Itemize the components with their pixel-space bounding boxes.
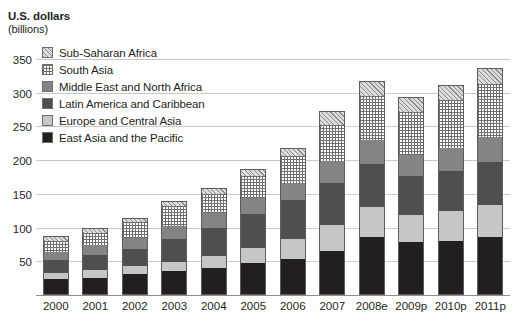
- bar-segment-mena: [320, 161, 344, 182]
- legend-swatch-icon-ssa: [42, 47, 53, 58]
- y-axis-tick-label: 250: [2, 121, 32, 133]
- bar-segment-mena: [478, 137, 502, 161]
- y-axis-tick-label: 150: [2, 189, 32, 201]
- legend-swatch-icon-lac: [42, 98, 53, 109]
- bar-segment-sa: [320, 125, 344, 161]
- stacked-bar[interactable]: [438, 85, 464, 295]
- bar-segment-sa: [281, 156, 305, 183]
- bar-segment-ssa: [360, 82, 384, 96]
- bar-segment-eap: [281, 259, 305, 294]
- bar-segment-ssa: [478, 69, 502, 84]
- bar-segment-sa: [83, 233, 107, 245]
- x-axis-labels: 200020012002200320042005200620072008e200…: [36, 300, 510, 320]
- bar-segment-eca: [439, 211, 463, 240]
- bar-segment-sa: [399, 112, 423, 155]
- bar-segment-mena: [123, 238, 147, 249]
- bar-segment-ssa: [439, 86, 463, 100]
- bar-segment-eca: [399, 215, 423, 242]
- legend-swatch-icon-eca: [42, 115, 53, 126]
- bar-segment-ssa: [320, 112, 344, 125]
- legend-swatch-icon-sa: [42, 64, 53, 75]
- chart-legend: Sub-Saharan AfricaSouth AsiaMiddle East …: [42, 44, 205, 146]
- stacked-bar[interactable]: [82, 228, 108, 295]
- legend-item-label: South Asia: [59, 64, 113, 76]
- stacked-bar[interactable]: [477, 68, 503, 295]
- legend-item-sa[interactable]: South Asia: [42, 61, 205, 78]
- chart-subtitle: (billions): [8, 23, 70, 35]
- bar-segment-lac: [399, 176, 423, 215]
- legend-swatch-icon-eap: [42, 132, 53, 143]
- bar-segment-eca: [360, 207, 384, 237]
- stacked-bar[interactable]: [398, 97, 424, 295]
- bar-segment-eap: [439, 241, 463, 294]
- bar-segment-mena: [162, 226, 186, 239]
- bar-segment-eap: [162, 271, 186, 294]
- bar-segment-lac: [320, 183, 344, 225]
- bar-segment-eap: [202, 268, 226, 294]
- chart-container: U.S. dollars (billions) 5010015020025030…: [0, 0, 518, 326]
- bar-segment-lac: [241, 214, 265, 247]
- page-title: U.S. dollars: [8, 10, 70, 23]
- bar-segment-mena: [44, 252, 68, 260]
- y-axis-tick-label: 50: [2, 256, 32, 268]
- stacked-bar[interactable]: [359, 81, 385, 295]
- x-axis-line: [36, 295, 510, 296]
- legend-item-mena[interactable]: Middle East and North Africa: [42, 78, 205, 95]
- legend-item-ssa[interactable]: Sub-Saharan Africa: [42, 44, 205, 61]
- bar-segment-sa: [360, 96, 384, 140]
- chart-title-block: U.S. dollars (billions): [8, 10, 70, 35]
- bar-segment-lac: [162, 239, 186, 262]
- legend-item-eca[interactable]: Europe and Central Asia: [42, 112, 205, 129]
- bar-segment-mena: [202, 213, 226, 228]
- bar-segment-eca: [478, 205, 502, 237]
- bar-segment-sa: [202, 194, 226, 213]
- legend-item-label: Sub-Saharan Africa: [59, 47, 157, 59]
- bar-segment-eca: [320, 225, 344, 251]
- bar-segment-sa: [478, 84, 502, 138]
- bar-segment-lac: [83, 255, 107, 271]
- legend-item-eap[interactable]: East Asia and the Pacific: [42, 129, 205, 146]
- bar-segment-ssa: [281, 149, 305, 156]
- y-axis-tick-label: 100: [2, 223, 32, 235]
- bar-segment-sa: [241, 176, 265, 199]
- bar-segment-eca: [241, 248, 265, 263]
- stacked-bar[interactable]: [201, 188, 227, 295]
- bar-segment-mena: [83, 245, 107, 255]
- bar-segment-mena: [281, 183, 305, 200]
- bar-segment-mena: [360, 140, 384, 163]
- stacked-bar[interactable]: [122, 218, 148, 295]
- bar-segment-sa: [44, 241, 68, 252]
- legend-item-lac[interactable]: Latin America and Caribbean: [42, 95, 205, 112]
- bar-segment-eca: [83, 270, 107, 278]
- bar-segment-mena: [241, 198, 265, 214]
- stacked-bar[interactable]: [240, 169, 266, 295]
- bar-segment-lac: [281, 200, 305, 239]
- bar-segment-ssa: [399, 98, 423, 111]
- stacked-bar[interactable]: [280, 148, 306, 295]
- y-axis-tick-label: 300: [2, 88, 32, 100]
- bar-segment-lac: [123, 249, 147, 267]
- bar-segment-eap: [360, 237, 384, 294]
- legend-item-label: East Asia and the Pacific: [59, 132, 183, 144]
- bar-segment-eap: [320, 251, 344, 294]
- bar-segment-lac: [478, 162, 502, 205]
- bar-segment-eca: [123, 266, 147, 274]
- stacked-bar[interactable]: [319, 111, 345, 295]
- stacked-bar[interactable]: [161, 201, 187, 296]
- legend-item-label: Latin America and Caribbean: [59, 98, 205, 110]
- bar-segment-eca: [202, 256, 226, 269]
- bar-segment-sa: [162, 206, 186, 226]
- y-axis-labels: 50100150200250300350: [0, 52, 32, 296]
- stacked-bar[interactable]: [43, 236, 69, 295]
- bar-segment-eap: [478, 237, 502, 294]
- y-axis-tick-label: 200: [2, 155, 32, 167]
- bar-segment-eap: [83, 278, 107, 294]
- y-axis-tick-label: 350: [2, 54, 32, 66]
- bar-segment-eap: [44, 279, 68, 294]
- legend-swatch-icon-mena: [42, 81, 53, 92]
- legend-item-label: Europe and Central Asia: [59, 115, 181, 127]
- bar-segment-mena: [439, 148, 463, 171]
- bar-segment-sa: [439, 100, 463, 148]
- bar-segment-mena: [399, 155, 423, 176]
- bar-segment-eap: [241, 263, 265, 294]
